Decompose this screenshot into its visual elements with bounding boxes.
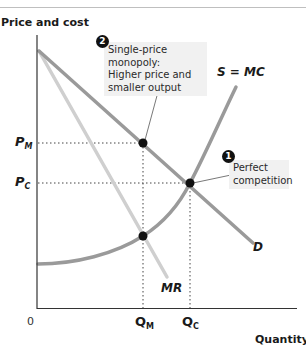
callout-monopoly-line-2: Higher price and (108, 69, 203, 82)
callout-2-pointer (145, 92, 158, 140)
demand-label: D (253, 240, 263, 254)
monopoly-point (139, 139, 148, 148)
x-axis-title: Quantity (255, 333, 306, 346)
supply-mc-curve (38, 87, 236, 264)
callout-1-pointer (193, 175, 231, 183)
y-tick-pc: PC (15, 174, 30, 191)
x-tick-qc: QC (182, 314, 199, 331)
y-axis-title: Price and cost (1, 16, 89, 29)
supply-mc-label: S = MC (217, 65, 265, 79)
x-tick-qm: QM (135, 314, 154, 331)
callout-monopoly: Single-price monopoly: Higher price and … (104, 42, 207, 96)
callout-monopoly-line-3: smaller output (108, 82, 203, 95)
callout-pc-line-2: competition (233, 175, 285, 188)
competitive-equilibrium-point (186, 179, 195, 188)
callout-perfect-competition: Perfect competition (229, 160, 289, 189)
callout-1-badge: 1 (222, 150, 235, 163)
callout-2-badge: 2 (96, 35, 109, 48)
mr-equals-mc-point (139, 232, 148, 241)
callout-monopoly-line-1: Single-price monopoly: (108, 44, 203, 69)
origin-label: 0 (27, 315, 34, 328)
mr-label: MR (161, 281, 182, 295)
callout-pc-line-1: Perfect (233, 162, 285, 175)
y-tick-pm: PM (15, 134, 33, 151)
